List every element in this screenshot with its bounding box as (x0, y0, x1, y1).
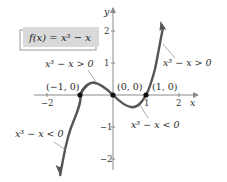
annotation-upper-right: x³ − x > 0 (163, 57, 212, 68)
annotation-lower-left: x³ − x < 0 (15, 128, 64, 139)
point-label-0-0: (0, 0) (117, 81, 143, 92)
function-label-box: f(x) = x³ − x (20, 27, 99, 50)
point-0-0 (110, 92, 115, 97)
leader-upper-right (163, 44, 175, 58)
point-label-neg1-0: (−1, 0) (46, 81, 80, 92)
y-tick-label-neg1: −1 (100, 122, 113, 132)
x-axis-label: x (190, 97, 196, 108)
point-1-0 (143, 92, 148, 97)
y-axis-label: y (103, 6, 110, 17)
function-label: f(x) = x³ − x (28, 32, 91, 43)
y-tick-label-1: 1 (104, 58, 109, 68)
x-tick-label-2: 2 (176, 98, 181, 108)
point-label-1-0: (1, 0) (152, 81, 178, 92)
y-tick-label-neg2: −2 (100, 154, 113, 164)
y-tick-label-2: 2 (104, 26, 109, 36)
x-tick-label-neg2: −2 (41, 98, 54, 108)
leader-upper-left (88, 70, 96, 82)
annotation-upper-left: x³ − x > 0 (45, 58, 94, 69)
cubic-function-graph: f(x) = x³ − x −2 1 2 x 2 1 −1 −2 y (−1, … (0, 0, 227, 182)
x-tick-label-1: 1 (144, 98, 149, 108)
leader-lower-left (54, 142, 66, 150)
point-neg1-0 (77, 92, 82, 97)
annotation-lower-middle: x³ − x < 0 (131, 119, 180, 130)
